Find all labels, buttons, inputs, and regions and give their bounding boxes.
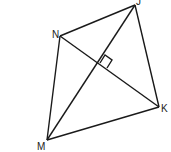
side-km (47, 107, 159, 140)
vertex-label-m: M (37, 141, 45, 152)
diagonal-jm (47, 5, 135, 140)
kite-diagram: J K M N (0, 0, 171, 152)
vertex-label-n: N (52, 29, 59, 40)
vertex-label-j: J (136, 0, 141, 7)
side-mn (47, 36, 60, 140)
side-nj (60, 5, 135, 36)
vertex-label-k: K (161, 103, 168, 114)
